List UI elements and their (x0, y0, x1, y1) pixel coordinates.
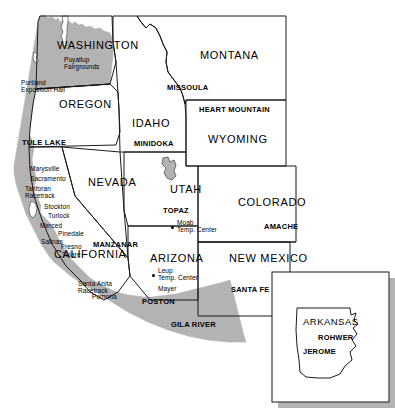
assembly-label-portland-exposition-hall: Portland Exposition Hall (21, 80, 65, 94)
camp-label-heart-mountain: HEART MOUNTAIN (199, 106, 270, 114)
camp-label-gila-river: GILA RIVER (171, 321, 216, 329)
camp-label-santa-fe: SANTA FE (231, 286, 269, 294)
great-salt-lake-shape (162, 157, 176, 180)
state-label-arizona: ARIZONA (150, 253, 204, 265)
temp-label-moab-temp-center: Moab Temp. Center (177, 220, 217, 234)
marker-dot-moab (171, 226, 174, 229)
camp-label-jerome: JEROME (303, 348, 336, 356)
assembly-label-sacramento: Sacramento (30, 176, 66, 183)
state-label-colorado: COLORADO (238, 197, 306, 209)
temp-label-leupp-temp-center: Leup Temp. Center (158, 268, 198, 282)
assembly-label-marysville: Marysville (30, 166, 60, 173)
assembly-label-merced: Merced (40, 223, 62, 230)
assembly-label-fresno: Fresno (61, 244, 82, 251)
state-label-idaho: IDAHO (132, 118, 170, 130)
marker-dot-leupp (152, 274, 155, 277)
state-label-montana: MONTANA (200, 50, 259, 62)
state-label-oregon: OREGON (59, 99, 112, 111)
state-label-wyoming: WYOMING (208, 134, 268, 146)
camp-label-tule-lake: TULE LAKE (22, 139, 66, 147)
state-label-washington: WASHINGTON (57, 40, 139, 52)
assembly-label-pomona: Pomona (92, 294, 117, 301)
assembly-label-stockton: Stockton (44, 204, 70, 211)
assembly-label-puyallup-fairgrounds: Puyallup Fairgrounds (64, 57, 99, 71)
camp-label-poston: POSTON (142, 298, 175, 306)
state-label-arkansas: ARKANSAS (303, 317, 359, 327)
assembly-label-pinedale: Pinedale (58, 231, 84, 238)
camp-label-topaz: TOPAZ (163, 207, 189, 215)
camp-label-manzanar: MANZANAR (93, 241, 138, 249)
camp-label-amache: AMACHE (264, 223, 298, 231)
map-container: WASHINGTON OREGON MONTANA IDAHO WYOMING … (0, 0, 395, 412)
state-label-utah: UTAH (170, 184, 202, 196)
assembly-label-salinas: Salinas (41, 239, 63, 246)
state-label-new-mexico: NEW MEXICO (229, 253, 308, 265)
camp-label-minidoka: MINIDOKA (134, 140, 174, 148)
assembly-label-tanforan-racetrack: Tanforan Racetrack (25, 186, 55, 200)
assembly-label-tulare: Tulare (62, 252, 81, 259)
assembly-label-turlock: Turlock (48, 213, 70, 220)
state-label-nevada: NEVADA (88, 177, 136, 189)
camp-label-rohwer: ROHWER (318, 334, 354, 342)
temp-label-mayer: Mayer (158, 286, 176, 293)
camp-label-missoula: MISSOULA (167, 84, 208, 92)
